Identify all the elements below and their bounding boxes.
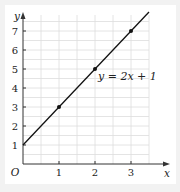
y-tick-label: 5 [12, 64, 18, 75]
x-axis-label: x [164, 167, 170, 179]
y-tick-label: 2 [12, 121, 18, 132]
grid [23, 15, 149, 164]
data-point [57, 105, 61, 109]
x-axis-arrow-icon [163, 162, 170, 167]
x-tick-label: 2 [92, 167, 98, 178]
y-tick-label: 6 [12, 45, 18, 56]
y-tick-label: 7 [12, 26, 18, 37]
chart: 1231234567Oxy y = 2x + 1 [0, 0, 180, 192]
x-tick-label: 3 [128, 167, 134, 178]
y-axis-label: y [13, 10, 21, 22]
y-axis-arrow-icon [21, 12, 26, 19]
tick-labels: 1231234567Oxy [11, 10, 170, 179]
x-tick-label: 1 [56, 167, 62, 178]
data-point [129, 29, 133, 33]
y-tick-label: 3 [12, 102, 18, 113]
y-tick-label: 4 [12, 83, 18, 94]
equation-label: y = 2x + 1 [97, 70, 157, 83]
data-point [93, 67, 97, 71]
y-tick-label: 1 [12, 140, 18, 151]
origin-label: O [11, 166, 20, 178]
